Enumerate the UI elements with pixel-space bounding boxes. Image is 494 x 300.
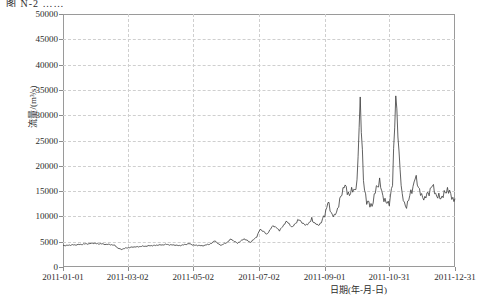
y-tick-label: 25000 — [36, 136, 59, 146]
x-tick-label: 2011-10-31 — [368, 272, 410, 282]
y-tick-label: 0 — [54, 262, 59, 272]
y-tick-label: 15000 — [36, 186, 59, 196]
y-tick-label: 10000 — [36, 211, 59, 221]
x-tick-mark — [128, 267, 129, 271]
x-tick-mark — [325, 267, 326, 271]
figure-caption: 图 N-2 …… — [6, 0, 65, 7]
y-tick-label: 50000 — [36, 9, 59, 19]
discharge-line-series — [63, 14, 455, 267]
x-tick-mark — [63, 267, 64, 271]
x-tick-mark — [389, 267, 390, 271]
x-tick-label: 2011-03-02 — [107, 272, 149, 282]
y-tick-label: 20000 — [36, 161, 59, 171]
y-tick-label: 45000 — [36, 34, 59, 44]
x-tick-mark — [455, 267, 456, 271]
plot-area: 0500010000150002000025000300003500040000… — [63, 14, 455, 267]
x-tick-mark — [193, 267, 194, 271]
y-tick-label: 40000 — [36, 60, 59, 70]
x-tick-label: 2011-09-01 — [304, 272, 346, 282]
discharge-line — [63, 96, 455, 250]
x-tick-label: 2011-01-01 — [42, 272, 84, 282]
x-tick-label: 2011-07-02 — [238, 272, 280, 282]
y-tick-label: 35000 — [36, 85, 59, 95]
y-tick-label: 30000 — [36, 110, 59, 120]
x-axis-title: 日期(年-月-日) — [330, 283, 387, 296]
figure-container: 图 N-2 …… 流量/(m³/s) 050001000015000200002… — [0, 0, 494, 300]
y-tick-label: 5000 — [40, 237, 58, 247]
x-tick-label: 2011-05-02 — [172, 272, 214, 282]
x-tick-label: 2011-12-31 — [434, 272, 476, 282]
x-tick-mark — [259, 267, 260, 271]
